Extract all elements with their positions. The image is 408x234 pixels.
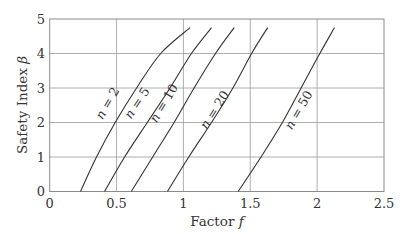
y-tick-label: 5: [37, 12, 45, 27]
x-tick-label: 1.5: [240, 196, 261, 211]
series-label: n = 10: [146, 81, 181, 125]
x-tick-label: 1: [179, 196, 187, 211]
y-tick-label: 2: [37, 115, 45, 130]
y-tick-label: 3: [37, 81, 45, 96]
safety-index-chart: n = 2n = 5n = 10n = 20n = 50 00.511.522.…: [0, 0, 408, 234]
series-label: n = 2: [92, 84, 122, 121]
x-tick-label: 0: [46, 196, 54, 211]
series-label: n = 50: [281, 88, 315, 132]
x-tick-label: 2: [313, 196, 321, 211]
y-axis-label: Safety Index β: [14, 56, 30, 154]
y-axis-ticks: 012345: [37, 12, 45, 200]
series-label: n = 20: [197, 88, 232, 132]
x-tick-label: 2.5: [374, 196, 395, 211]
series-labels: n = 2n = 5n = 10n = 20n = 50: [92, 81, 316, 132]
x-axis-ticks: 00.511.522.5: [46, 196, 395, 211]
x-tick-label: 0.5: [106, 196, 127, 211]
y-tick-label: 0: [37, 184, 45, 199]
y-tick-label: 1: [37, 150, 45, 165]
y-tick-label: 4: [37, 46, 45, 61]
x-axis-label: Factor f: [190, 213, 245, 229]
